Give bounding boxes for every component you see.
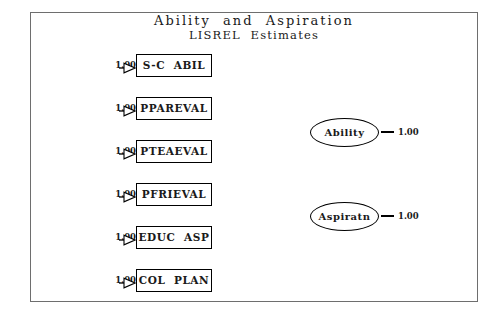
indicator-row: 1.00 COL PLAN (136, 268, 212, 292)
title-subtitle: LISREL Estimates (30, 29, 478, 41)
latent-coefficient: 1.00 (398, 211, 419, 221)
indicator-box: S-C ABIL (136, 54, 212, 77)
indicator-row: 1.00 EDUC ASP (136, 225, 212, 249)
latent-connector-line (381, 215, 394, 216)
arrow-right-icon (119, 274, 136, 286)
indicator-row: 1.00 PFRIEVAL (136, 182, 212, 206)
latent-row: Ability 1.00 (310, 117, 419, 147)
arrow-right-icon (119, 59, 136, 71)
indicator-box: COL PLAN (136, 269, 212, 292)
diagram-title: Ability and Aspiration LISREL Estimates (30, 14, 478, 41)
indicator-box: PTEAEVAL (136, 140, 212, 163)
indicator-box: EDUC ASP (136, 226, 212, 249)
latent-row: Aspiratn 1.00 (310, 201, 419, 231)
indicator-box: PPAREVAL (136, 97, 212, 120)
latent-ellipse: Aspiratn (310, 202, 379, 231)
title-main: Ability and Aspiration (30, 14, 478, 28)
indicator-row: 1.00 PPAREVAL (136, 96, 212, 120)
latent-coefficient: 1.00 (398, 127, 419, 137)
diagram-frame (30, 12, 478, 302)
indicator-row: 1.00 PTEAEVAL (136, 139, 212, 163)
arrow-right-icon (119, 188, 136, 200)
latent-connector-line (381, 131, 394, 132)
indicator-box: PFRIEVAL (136, 183, 212, 206)
diagram-canvas: Ability and Aspiration LISREL Estimates … (0, 0, 502, 317)
latent-ellipse: Ability (310, 118, 379, 147)
arrow-right-icon (119, 231, 136, 243)
arrow-right-icon (119, 102, 136, 114)
arrow-right-icon (119, 145, 136, 157)
indicator-row: 1.00 S-C ABIL (136, 53, 212, 77)
